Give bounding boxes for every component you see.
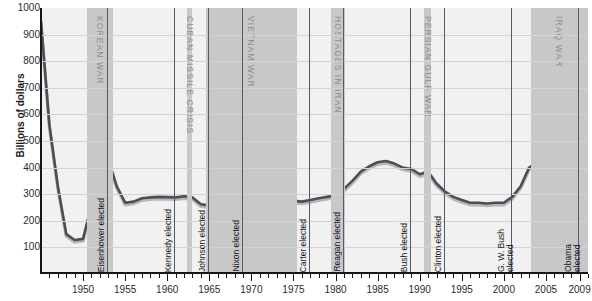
x-tick xyxy=(260,274,261,278)
x-tick xyxy=(167,274,168,281)
x-tick xyxy=(243,274,244,278)
x-tick xyxy=(495,274,496,278)
x-tick xyxy=(134,274,135,278)
x-tick xyxy=(386,274,387,278)
x-tick xyxy=(588,274,589,278)
x-tick xyxy=(327,274,328,278)
x-tick xyxy=(411,274,412,278)
election-marker-line xyxy=(107,8,108,274)
x-tick xyxy=(66,274,67,278)
shadow-line xyxy=(41,24,580,242)
x-tick xyxy=(310,274,311,278)
x-tick-label: 2005 xyxy=(535,284,557,295)
x-tick xyxy=(75,274,76,278)
x-tick xyxy=(117,274,118,278)
x-tick xyxy=(378,274,379,281)
x-tick-label: 1990 xyxy=(409,284,431,295)
election-marker-label: Carter elected xyxy=(299,219,308,272)
x-tick xyxy=(201,274,202,278)
y-axis-tick-labels: 1000900800700600500400300200100 xyxy=(0,0,40,301)
x-tick xyxy=(184,274,185,278)
x-axis-ticks xyxy=(41,274,588,282)
x-tick xyxy=(403,274,404,278)
x-tick xyxy=(361,274,362,278)
x-tick xyxy=(352,274,353,278)
y-tick-label: 1000 xyxy=(6,2,40,13)
x-tick-label: 1980 xyxy=(324,284,346,295)
y-tick-label: 300 xyxy=(6,188,40,199)
x-tick xyxy=(580,274,581,281)
y-tick-label: 900 xyxy=(6,29,40,40)
x-tick xyxy=(420,274,421,281)
x-tick-label: 1960 xyxy=(156,284,178,295)
x-tick xyxy=(58,274,59,278)
election-marker-line xyxy=(309,8,310,274)
x-tick xyxy=(285,274,286,278)
x-tick xyxy=(445,274,446,278)
x-tick xyxy=(470,274,471,278)
election-marker-line xyxy=(174,8,175,274)
x-tick xyxy=(293,274,294,281)
y-tick-label: 700 xyxy=(6,82,40,93)
defense-spending-line xyxy=(41,21,580,240)
x-tick xyxy=(302,274,303,278)
war-band-label: HOSTAGES IN IRAN xyxy=(333,16,343,114)
election-marker-line xyxy=(242,8,243,274)
x-tick xyxy=(336,274,337,281)
x-tick xyxy=(394,274,395,278)
election-marker-line xyxy=(343,8,344,274)
x-tick xyxy=(571,274,572,278)
x-tick xyxy=(479,274,480,278)
gridline xyxy=(41,35,588,36)
gridline xyxy=(41,194,588,195)
x-tick-label: 1955 xyxy=(114,284,136,295)
x-tick xyxy=(453,274,454,278)
x-tick xyxy=(251,274,252,281)
x-tick xyxy=(100,274,101,278)
y-tick-label: 600 xyxy=(6,108,40,119)
x-tick xyxy=(49,274,50,278)
x-tick xyxy=(504,274,505,281)
x-tick xyxy=(235,274,236,278)
x-tick xyxy=(369,274,370,278)
x-tick xyxy=(218,274,219,278)
plot-area: KOREAN WARCUBAN MISSILE CRISISVIETNAM WA… xyxy=(41,8,588,274)
x-tick xyxy=(529,274,530,278)
election-marker-label: G. W. Bush elected xyxy=(497,229,515,272)
x-tick-label: 2000 xyxy=(493,284,515,295)
x-tick-label: 1950 xyxy=(72,284,94,295)
x-tick xyxy=(159,274,160,278)
war-band-label: KOREAN WAR xyxy=(95,16,105,85)
x-tick xyxy=(142,274,143,278)
x-tick-label: 1975 xyxy=(282,284,304,295)
y-tick-label: 200 xyxy=(6,215,40,226)
gridline xyxy=(41,168,588,169)
gridline xyxy=(41,221,588,222)
x-tick xyxy=(538,274,539,278)
y-axis-line xyxy=(40,8,42,274)
election-marker-label: Bush elected xyxy=(400,223,409,272)
x-tick xyxy=(546,274,547,281)
election-marker-label: Johnson elected xyxy=(198,210,207,272)
x-tick xyxy=(268,274,269,278)
y-tick-label: 400 xyxy=(6,162,40,173)
x-tick-label: 1970 xyxy=(240,284,262,295)
x-tick xyxy=(226,274,227,278)
x-tick xyxy=(319,274,320,278)
election-marker-label: Obama elected xyxy=(564,244,582,272)
chart-container: Billions of dollars 10009008007006005004… xyxy=(0,0,592,301)
x-tick xyxy=(125,274,126,281)
war-band-label: VIETNAM WAR xyxy=(246,16,256,88)
x-tick xyxy=(437,274,438,278)
gridline xyxy=(41,61,588,62)
x-tick xyxy=(554,274,555,278)
election-marker-line xyxy=(410,8,411,274)
x-tick xyxy=(277,274,278,278)
y-tick-label: 800 xyxy=(6,55,40,66)
election-marker-label: Kennedy elected xyxy=(164,209,173,272)
war-band-label: PERSIAN GULF WAR xyxy=(423,16,433,118)
x-tick xyxy=(487,274,488,278)
x-tick xyxy=(91,274,92,278)
y-tick-label: 500 xyxy=(6,135,40,146)
election-marker-label: Clinton elected xyxy=(434,216,443,272)
